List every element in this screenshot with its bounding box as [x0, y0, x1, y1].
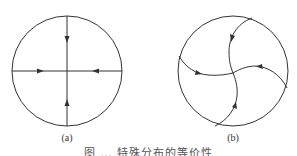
figure-caption: 图 … 特殊分布的等价性 [0, 147, 297, 156]
arrow-up-icon [232, 102, 237, 109]
flow-curve-top [229, 18, 252, 73]
arrow-right-icon [37, 69, 44, 74]
panel-b [178, 16, 288, 126]
flow-curve-right [233, 66, 287, 88]
arrow-down-icon [65, 36, 70, 43]
panel-label-a: (a) [47, 132, 87, 143]
flow-curve-left [179, 56, 233, 75]
panel-a [12, 16, 122, 126]
arrow-left-icon [92, 69, 99, 74]
arrow-up-icon [65, 99, 70, 106]
arrow-left-icon [256, 64, 263, 69]
flow-curve-bottom [215, 73, 237, 126]
panel-label-b: (b) [213, 132, 253, 143]
